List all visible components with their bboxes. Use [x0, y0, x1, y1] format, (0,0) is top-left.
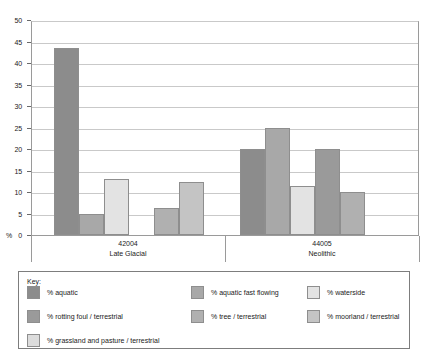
category-label: 44005Neolithic	[225, 239, 419, 259]
legend-item: % grassland and pasture / terrestrial	[27, 334, 159, 347]
legend-swatch	[307, 286, 320, 299]
gridline	[32, 150, 418, 151]
gridline	[32, 21, 418, 22]
y-axis-tick-label: 40	[0, 60, 22, 67]
bar-chart: % 05101520253035404550 42004Late Glacial…	[0, 0, 428, 262]
legend-item: % moorland / terrestrial	[307, 310, 399, 323]
legend-label: % moorland / terrestrial	[327, 313, 399, 321]
legend-item: % rotting foul / terrestrial	[27, 310, 123, 323]
category-separator	[419, 236, 420, 262]
legend-label: % waterside	[327, 289, 365, 297]
legend: Key: % aquatic% aquatic fast flowing% wa…	[18, 271, 410, 349]
legend-label: % aquatic	[47, 289, 78, 297]
y-axis-tick-label: 15	[0, 168, 22, 175]
bar	[79, 214, 104, 236]
bar	[179, 182, 204, 235]
legend-swatch	[27, 310, 40, 323]
legend-swatch	[27, 334, 40, 347]
legend-swatch	[27, 286, 40, 299]
legend-swatch	[191, 286, 204, 299]
bar	[265, 128, 290, 236]
bar	[340, 192, 365, 235]
bar	[315, 149, 340, 235]
bar	[54, 48, 79, 235]
y-axis-tick-label: 5	[0, 211, 22, 218]
gridline	[32, 129, 418, 130]
legend-item: % tree / terrestrial	[191, 310, 266, 323]
bar	[104, 179, 129, 235]
plot-area	[31, 21, 419, 236]
y-axis-tick-label: 0	[0, 232, 22, 239]
y-axis-tick-label: 30	[0, 103, 22, 110]
y-axis-tick-label: 25	[0, 125, 22, 132]
y-axis-tick-label: 50	[0, 17, 22, 24]
legend-label: % aquatic fast flowing	[211, 289, 279, 297]
legend-item: % aquatic	[27, 286, 78, 299]
category-sublabel: Neolithic	[225, 249, 419, 259]
gridline	[32, 107, 418, 108]
legend-label: % rotting foul / terrestrial	[47, 313, 123, 321]
legend-label: % tree / terrestrial	[211, 313, 266, 321]
bar	[240, 149, 265, 235]
legend-swatch	[307, 310, 320, 323]
legend-swatch	[191, 310, 204, 323]
bar	[290, 186, 315, 235]
legend-label: % grassland and pasture / terrestrial	[47, 337, 159, 345]
category-code: 44005	[225, 239, 419, 249]
legend-title: Key:	[27, 278, 41, 286]
category-sublabel: Late Glacial	[31, 249, 225, 259]
y-axis-tick-label: 20	[0, 146, 22, 153]
bar	[154, 208, 179, 235]
gridline	[32, 86, 418, 87]
legend-item: % aquatic fast flowing	[191, 286, 279, 299]
y-axis-tick-label: 35	[0, 82, 22, 89]
category-code: 42004	[31, 239, 225, 249]
y-axis-tick-label: 10	[0, 189, 22, 196]
gridline	[32, 64, 418, 65]
y-axis-tick-label: 45	[0, 39, 22, 46]
gridline	[32, 172, 418, 173]
category-label: 42004Late Glacial	[31, 239, 225, 259]
gridline	[32, 43, 418, 44]
legend-item: % waterside	[307, 286, 365, 299]
